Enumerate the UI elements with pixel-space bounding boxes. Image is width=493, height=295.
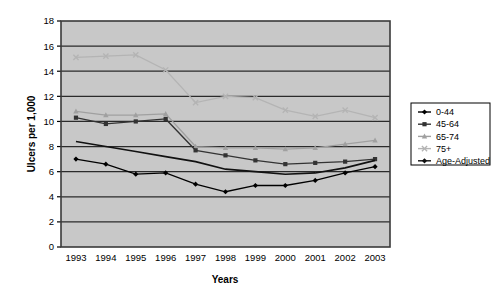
legend-item-label: 75+ <box>436 144 451 154</box>
y-axis-tick-label: 8 <box>49 141 54 152</box>
y-axis-tick-label: 10 <box>43 116 54 127</box>
y-axis-tick-label: 14 <box>43 66 54 77</box>
x-axis-tick-label: 1998 <box>215 252 236 263</box>
data-point-marker <box>223 153 227 157</box>
x-axis-tick-label: 1997 <box>185 252 206 263</box>
y-axis-tick-label: 2 <box>49 216 54 227</box>
y-axis-title: Ulcers per 1,000 <box>26 95 37 172</box>
x-axis-tick-label: 2000 <box>275 252 296 263</box>
legend-item-label: Age-Adjusted <box>436 156 490 166</box>
y-axis-tick-label: 12 <box>43 91 54 102</box>
x-axis-tick-label: 2003 <box>364 252 385 263</box>
x-axis-tick-label: 2002 <box>335 252 356 263</box>
data-point-marker <box>134 119 138 123</box>
data-point-marker <box>164 117 168 121</box>
y-axis-tick-label: 4 <box>49 191 54 202</box>
data-point-marker <box>74 116 78 120</box>
data-point-marker <box>422 122 426 126</box>
legend-item-label: 65-74 <box>436 132 459 142</box>
x-axis-title: Years <box>212 274 239 285</box>
x-axis-tick-labels: 1993199419951996199719981999200020012002… <box>65 252 385 263</box>
y-axis-tick-label: 6 <box>49 166 54 177</box>
x-axis-tick-label: 1996 <box>155 252 176 263</box>
legend-item-label: 0-44 <box>436 107 454 117</box>
plot-area-background <box>61 21 390 247</box>
line-chart: 024681012141618 199319941995199619971998… <box>0 0 493 295</box>
data-point-marker <box>343 160 347 164</box>
x-axis-tick-label: 1994 <box>95 252 116 263</box>
data-point-marker <box>283 162 287 166</box>
y-axis-tick-label: 0 <box>49 241 54 252</box>
y-axis-tick-label: 16 <box>43 41 54 52</box>
chart-legend: 0-4445-6465-7475+Age-Adjusted <box>411 103 490 166</box>
x-axis-tick-label: 2001 <box>305 252 326 263</box>
x-axis-tick-label: 1995 <box>125 252 146 263</box>
data-point-marker <box>104 122 108 126</box>
y-axis-tick-label: 18 <box>43 15 54 26</box>
x-axis-tick-label: 1999 <box>245 252 266 263</box>
legend-item-label: 45-64 <box>436 119 459 129</box>
data-point-marker <box>193 148 197 152</box>
data-point-marker <box>313 161 317 165</box>
x-axis-tick-label: 1993 <box>65 252 86 263</box>
chart-container: 024681012141618 199319941995199619971998… <box>0 0 493 295</box>
data-point-marker <box>253 158 257 162</box>
